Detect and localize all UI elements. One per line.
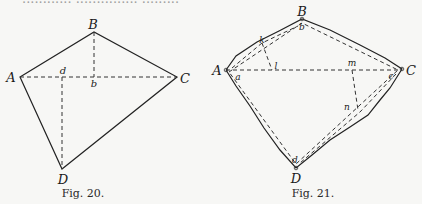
fig21-label-C: C — [406, 64, 416, 77]
fig21-label-n: n — [344, 103, 350, 112]
fig21-label-a: a — [235, 73, 240, 82]
fig21-label-l: l — [275, 62, 278, 71]
fig20-label-b: b — [91, 79, 97, 89]
fig20-label-D: D — [58, 173, 68, 186]
fig21-label-b: b — [299, 23, 305, 32]
fig21-label-B: B — [297, 5, 307, 18]
figure-20-drawing — [20, 32, 177, 169]
fig20-label-B: B — [88, 18, 98, 31]
diagram-page: ............ ............... ......... — [0, 0, 422, 204]
fig21-label-d: d — [292, 156, 298, 165]
offset-line-CD — [300, 74, 396, 163]
fig21-label-c: c — [388, 72, 393, 81]
offset-mn — [352, 70, 358, 110]
fig20-label-C: C — [180, 72, 190, 85]
fig21-label-D: D — [291, 172, 301, 185]
fig20-label-A: A — [6, 71, 15, 84]
figure-21-drawing — [224, 17, 404, 170]
fig21-label-m: m — [348, 59, 357, 68]
boundary-traverse — [226, 19, 402, 168]
fig21-label-k: k — [259, 36, 264, 45]
fig20-caption: Fig. 20. — [62, 187, 105, 200]
fig20-label-d: d — [60, 66, 66, 76]
quadrilateral-ABCD — [20, 32, 177, 169]
fig21-caption: Fig. 21. — [292, 187, 335, 200]
fig21-label-A: A — [212, 64, 221, 77]
